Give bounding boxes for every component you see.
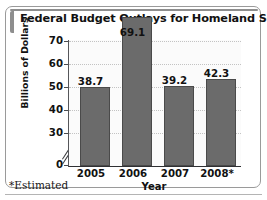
bar-value-2008: 42.3: [189, 67, 244, 79]
y-tick-label-30: 30: [41, 127, 63, 138]
y-tick-label-70: 70: [41, 35, 63, 46]
chart-figure: Federal Budget Outlays for Homeland Secu…: [0, 0, 267, 200]
bar-2007[interactable]: [164, 86, 194, 166]
y-tick-label-40: 40: [41, 104, 63, 115]
gridline-60: [69, 64, 241, 65]
bar-value-2005: 38.7: [63, 75, 118, 87]
bar-value-2006: 69.1: [105, 26, 160, 38]
x-tick-label-2008: 2008*: [182, 168, 252, 179]
y-tick-label-50: 50: [41, 81, 63, 92]
footnote-estimated: *Estimated: [9, 179, 68, 191]
plot-wrapper: Billions of Dollars 70 60 50 40 30 0: [0, 0, 267, 200]
gridline-70: [69, 41, 241, 42]
y-tick-label-60: 60: [41, 58, 63, 69]
bar-2006[interactable]: [122, 17, 152, 166]
bar-2008[interactable]: [206, 79, 236, 166]
y-axis-label: Billions of Dollars: [19, 19, 30, 109]
x-axis-label: Year: [68, 181, 240, 192]
plot-area: [68, 40, 241, 167]
bar-2005[interactable]: [80, 87, 110, 166]
bottom-rule: [5, 194, 262, 195]
